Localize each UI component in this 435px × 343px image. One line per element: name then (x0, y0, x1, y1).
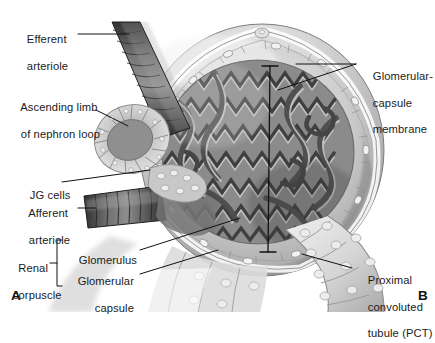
label-afferent-arteriole-line2: arteriole (29, 234, 70, 246)
label-ascending-limb-line2: of nephron loop (21, 128, 100, 140)
label-glomerular-capsule-membrane: Glomerular- capsule membrane (360, 57, 433, 149)
label-glomerular-capsule: Glomerular capsule (56, 262, 134, 328)
label-efferent-arteriole-line2: arteriole (27, 60, 68, 72)
leader-jg-cells (62, 170, 150, 182)
label-renal-corpuscle-line1: Renal (18, 262, 48, 274)
label-capsule-membrane-line1: Glomerular- (373, 70, 433, 82)
label-renal-corpuscle: Renal corpuscle (0, 249, 48, 315)
label-capsule-membrane-line2: capsule (373, 97, 412, 109)
label-efferent-arteriole: Efferent arteriole (14, 20, 68, 86)
label-pct-line1: Proximal (368, 274, 412, 286)
panel-label-a: A (11, 288, 21, 303)
label-afferent-arteriole-line1: Afferent (28, 207, 68, 219)
label-glomerular-capsule-line2: capsule (95, 302, 134, 314)
label-pct-line3: tubule (PCT) (368, 327, 433, 339)
panel-label-b: B (418, 288, 428, 303)
label-capsule-membrane-line3: membrane (373, 123, 427, 135)
label-glomerular-capsule-line1: Glomerular (78, 275, 134, 287)
label-efferent-arteriole-line1: Efferent (27, 33, 67, 45)
label-pct-line2: convoluted (368, 301, 423, 313)
label-ascending-limb: Ascending limb of nephron loop (8, 88, 100, 154)
label-ascending-limb-line1: Ascending limb (20, 101, 97, 113)
